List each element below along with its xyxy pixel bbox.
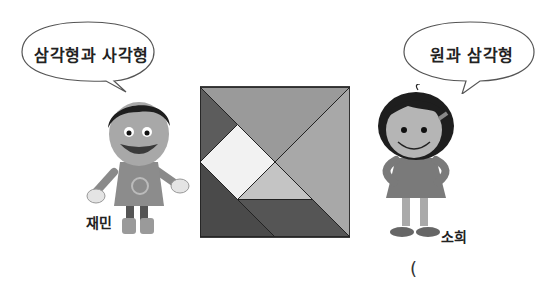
answer-blank-open-paren: ( [410,258,417,279]
girl-character-illustration [368,84,468,244]
left-speech-text: 삼각형과 사각형 [34,42,149,66]
girl-name-label: 소희 [441,226,467,246]
right-speech-text: 원과 삼각형 [430,42,514,66]
boy-name-label: 재민 [86,212,112,232]
tangram-square [200,86,350,238]
